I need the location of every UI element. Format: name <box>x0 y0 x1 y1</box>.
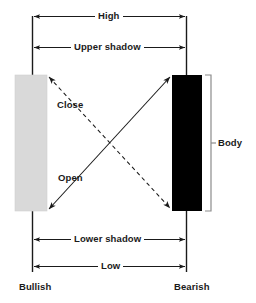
bearish-body-rect <box>172 75 202 211</box>
open-connector-line <box>49 77 170 209</box>
label-body: Body <box>218 137 242 148</box>
measure-arrows <box>34 17 185 267</box>
label-close: Close <box>57 99 83 110</box>
bullish-candle <box>15 16 47 272</box>
label-bearish: Bearish <box>174 281 210 292</box>
body-bracket-path <box>205 75 211 211</box>
label-lower-shadow: Lower shadow <box>71 233 144 244</box>
body-bracket <box>205 75 216 211</box>
label-bullish: Bullish <box>19 281 51 292</box>
label-open: Open <box>58 172 83 183</box>
bullish-body-rect <box>15 75 47 211</box>
price-connectors <box>49 77 170 209</box>
label-low: Low <box>98 260 123 271</box>
label-high: High <box>95 10 123 21</box>
candlestick-diagram: High Upper shadow Close Open Body Lower … <box>0 0 256 303</box>
label-upper-shadow: Upper shadow <box>71 41 144 52</box>
bearish-candle <box>172 16 202 272</box>
